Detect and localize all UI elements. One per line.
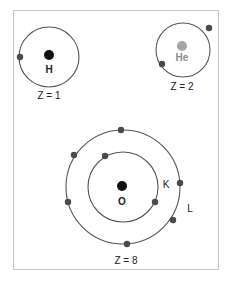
nucleus-h bbox=[44, 50, 54, 60]
electron-k bbox=[152, 199, 158, 205]
atom-oxygen: O K L Z = 8 bbox=[65, 127, 193, 266]
atom-hydrogen: H Z = 1 bbox=[17, 27, 79, 101]
nucleus-he bbox=[177, 41, 187, 51]
element-symbol-o: O bbox=[118, 196, 126, 207]
atom-helium: He Z = 2 bbox=[156, 23, 212, 92]
electron bbox=[159, 61, 165, 67]
electron-l bbox=[170, 217, 176, 223]
atomic-number-o: Z = 8 bbox=[114, 255, 138, 266]
atomic-number-he: Z = 2 bbox=[170, 81, 194, 92]
element-symbol-he: He bbox=[176, 52, 189, 63]
bohr-diagram: H Z = 1 He Z = 2 O K L Z = 8 bbox=[0, 0, 228, 286]
shell-label-l: L bbox=[187, 203, 193, 214]
electron bbox=[17, 54, 23, 60]
electron-l bbox=[65, 199, 71, 205]
electron bbox=[206, 25, 212, 31]
electron-l bbox=[71, 152, 77, 158]
element-symbol-h: H bbox=[45, 64, 52, 75]
atomic-number-h: Z = 1 bbox=[37, 90, 61, 101]
electron-l bbox=[124, 241, 130, 247]
nucleus-o bbox=[117, 181, 127, 191]
electron-k bbox=[102, 153, 108, 159]
electron-l bbox=[118, 127, 124, 133]
shell-label-k: K bbox=[163, 179, 170, 190]
electron-l bbox=[177, 180, 183, 186]
